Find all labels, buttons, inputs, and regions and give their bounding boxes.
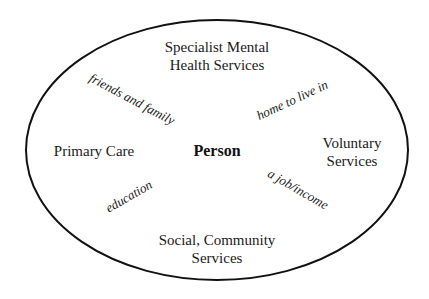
service-specialist-mental-health: Specialist Mental Health Services xyxy=(165,39,270,73)
service-voluntary: Voluntary Services xyxy=(323,135,382,169)
service-primary-care-label: Primary Care xyxy=(54,143,135,159)
service-social-line-2: Services xyxy=(192,250,243,266)
service-primary-care: Primary Care xyxy=(54,143,135,159)
need-job-income: a job/income xyxy=(265,166,331,213)
service-specialist-line-1: Specialist Mental xyxy=(165,39,270,55)
service-specialist-line-2: Health Services xyxy=(170,57,265,73)
service-social-line-1: Social, Community xyxy=(159,232,276,248)
need-friends-and-family: friends and family xyxy=(87,70,178,128)
service-voluntary-line-2: Services xyxy=(327,153,378,169)
service-voluntary-line-1: Voluntary xyxy=(323,135,382,151)
person-centred-services-diagram: Specialist Mental Health Services Primar… xyxy=(0,0,429,299)
service-social-community: Social, Community Services xyxy=(159,232,276,266)
need-education: education xyxy=(103,177,155,216)
center-person-label: Person xyxy=(193,142,240,159)
need-home-to-live-in: home to live in xyxy=(254,77,330,123)
